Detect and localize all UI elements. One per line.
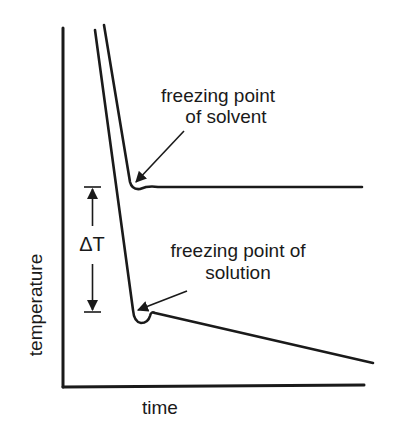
solvent-label-line2: of solvent — [185, 106, 267, 127]
solution-label-line2: solution — [205, 262, 271, 283]
x-axis-label: time — [142, 397, 178, 418]
diagram-canvas: ΔT freezing point of solvent freezing po… — [0, 0, 395, 437]
delta-t-label: ΔT — [79, 233, 105, 255]
axes — [63, 28, 364, 387]
freezing-point-diagram: ΔT freezing point of solvent freezing po… — [0, 0, 395, 437]
solution-label-line1: freezing point of — [170, 240, 306, 261]
solution-arrow — [138, 291, 187, 310]
y-axis-label: temperature — [25, 254, 46, 356]
x-axis — [63, 385, 364, 387]
solvent-label-line1: freezing point — [161, 85, 276, 106]
solution-curve — [95, 30, 373, 363]
solvent-arrow — [136, 131, 184, 182]
